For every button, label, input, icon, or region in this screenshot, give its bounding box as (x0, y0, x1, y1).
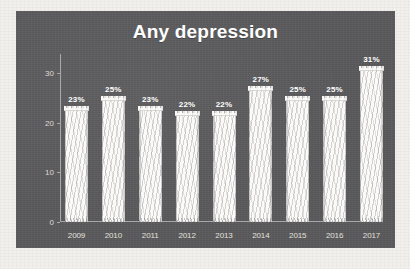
bar (249, 88, 272, 222)
y-tick-mark (57, 222, 60, 223)
x-axis-tick-labels: 200920102011201220132014201520162017 (65, 231, 383, 240)
chart-title: Any depression (16, 21, 395, 43)
bar-slot: 23% (65, 58, 88, 222)
bar-slot: 25% (102, 58, 125, 222)
bar-value-label: 23% (130, 95, 170, 104)
x-tick-label: 2015 (286, 231, 309, 240)
y-tick-mark (57, 123, 60, 124)
x-tick-label: 2017 (360, 231, 383, 240)
y-axis-line (60, 54, 61, 222)
chart-panel: Any depression 0102030 23%25%23%22%22%27… (16, 11, 395, 248)
bar-slot: 22% (213, 58, 236, 222)
y-tick-label: 10 (16, 168, 54, 177)
bar-slot: 31% (360, 58, 383, 222)
bar (102, 98, 125, 222)
x-tick-label: 2013 (213, 231, 236, 240)
x-tick-label: 2012 (176, 231, 199, 240)
chart-figure: Any depression 0102030 23%25%23%22%22%27… (0, 0, 410, 269)
x-tick-label: 2010 (102, 231, 125, 240)
plot-area: 0102030 23%25%23%22%22%27%25%25%31% 2009… (60, 46, 385, 234)
bar (139, 108, 162, 222)
bar-value-label: 27% (241, 75, 281, 84)
bar-series: 23%25%23%22%22%27%25%25%31% (65, 58, 383, 222)
bar-value-label: 25% (278, 85, 318, 94)
x-tick-label: 2016 (323, 231, 346, 240)
bar (286, 98, 309, 222)
bar-slot: 25% (323, 58, 346, 222)
bar (323, 98, 346, 222)
bar (65, 108, 88, 222)
x-tick-label: 2011 (139, 231, 162, 240)
bar-slot: 25% (286, 58, 309, 222)
bar (176, 113, 199, 222)
bar-value-label: 23% (57, 95, 97, 104)
bar-slot: 27% (249, 58, 272, 222)
y-tick-mark (57, 73, 60, 74)
x-tick-label: 2014 (249, 231, 272, 240)
y-tick-mark (57, 172, 60, 173)
y-tick-label: 20 (16, 118, 54, 127)
bar-slot: 23% (139, 58, 162, 222)
x-tick-label: 2009 (65, 231, 88, 240)
bar (360, 68, 383, 222)
y-tick-label: 30 (16, 68, 54, 77)
bar-value-label: 22% (167, 100, 207, 109)
bar (213, 113, 236, 222)
bar-value-label: 25% (315, 85, 355, 94)
bar-value-label: 25% (93, 85, 133, 94)
bar-slot: 22% (176, 58, 199, 222)
bar-value-label: 31% (352, 55, 392, 64)
y-tick-label: 0 (16, 218, 54, 227)
bar-value-label: 22% (204, 100, 244, 109)
